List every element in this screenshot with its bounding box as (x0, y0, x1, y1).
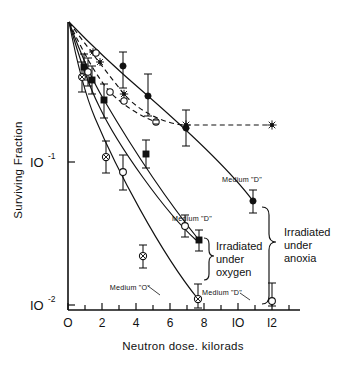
x-axis-title: Neutron dose. kilorads (122, 340, 244, 352)
series-label-medium-o: Medium "O" (110, 283, 151, 292)
datapoint (93, 50, 99, 56)
annot-oxygen-line-1: Irradiated (216, 240, 262, 252)
annot-anoxia-line-3: anoxia (284, 252, 317, 264)
datapoint (96, 58, 104, 66)
y-tick-1e-1-exponent: -1 (48, 151, 56, 161)
series-label-medium-d-anoxia: Medium "D" (222, 175, 262, 184)
datapoint (153, 119, 159, 125)
y-tick-1e-1-base: IO (30, 155, 44, 170)
survival-curve-figure: IO -1 IO -2 O 2 4 6 8 IO I2 Neutron dose… (0, 0, 345, 368)
x-tick-label-12: I2 (267, 316, 277, 330)
chart-svg: IO -1 IO -2 O 2 4 6 8 IO I2 Neutron dose… (0, 0, 345, 368)
annot-anoxia-line-2: under (284, 239, 312, 251)
annot-oxygen-line-3: oxygen (216, 266, 251, 278)
annot-oxygen-line-2: under (216, 253, 244, 265)
annot-anoxia-line-1: Irradiated (284, 226, 330, 238)
datapoint (121, 98, 127, 104)
series-label-medium-d-oxygen: Medium "D" (172, 214, 212, 223)
x-tick-label-4: 4 (133, 316, 140, 330)
y-tick-1e-2-exponent: -2 (48, 294, 56, 304)
y-tick-1e-2-base: IO (30, 298, 44, 313)
x-tick-label-0: O (63, 316, 72, 330)
x-tick-label-8: 8 (201, 316, 208, 330)
datapoint (267, 120, 276, 129)
figure-background (0, 0, 345, 368)
series-label-medium-d-lower: Medium "D" (202, 288, 242, 297)
datapoint (107, 89, 113, 95)
y-axis-title: Surviving Fraction (12, 121, 24, 218)
datapoint (181, 120, 190, 129)
x-tick-label-10: IO (232, 316, 245, 330)
datapoint (120, 90, 128, 98)
x-tick-label-2: 2 (99, 316, 106, 330)
x-tick-label-6: 6 (167, 316, 174, 330)
